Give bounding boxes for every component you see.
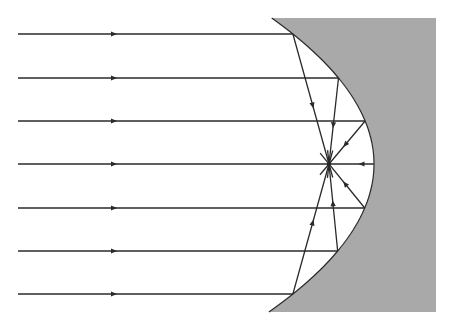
reflected-ray [320,153,365,208]
focal-point [327,162,331,166]
arrow-icon [111,205,117,210]
diagram-canvas [0,0,454,330]
arrow-icon [111,31,117,36]
arrow-icon [111,118,117,123]
arrow-icon [111,291,117,296]
mirror-body [269,18,436,312]
arrow-icon [111,248,117,253]
arrow-icon [111,161,117,166]
arrow-icon [111,75,117,80]
reflected-ray [320,121,365,175]
parabolic-mirror-diagram [0,0,454,330]
arrow-icon [359,161,365,166]
